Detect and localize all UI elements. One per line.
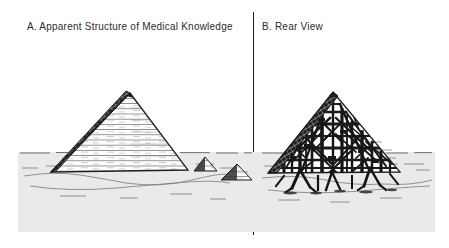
- hollow-pyramid: [268, 92, 400, 173]
- illustration-canvas: [0, 0, 449, 248]
- solid-pyramid: [44, 90, 188, 173]
- figure-two-panel-pyramid-cartoon: A. Apparent Structure of Medical Knowled…: [0, 0, 449, 248]
